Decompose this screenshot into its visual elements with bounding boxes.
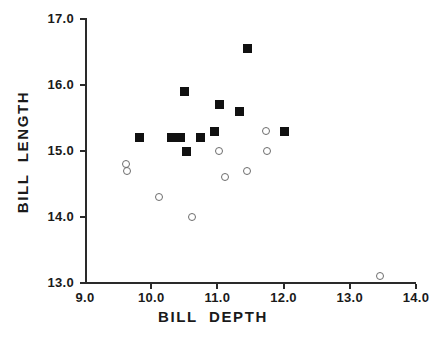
data-point-open-circle <box>123 167 131 175</box>
data-point-filled-square <box>235 107 244 116</box>
data-point-filled-square <box>215 100 224 109</box>
x-axis-tick-label: 9.0 <box>61 290 109 305</box>
x-axis-tick-label: 11.0 <box>193 290 241 305</box>
x-axis-tick-label: 10.0 <box>127 290 175 305</box>
data-point-filled-square <box>180 87 189 96</box>
data-point-open-circle <box>263 147 271 155</box>
data-point-open-circle <box>243 167 251 175</box>
y-axis-tick <box>80 84 85 86</box>
data-point-filled-square <box>210 127 219 136</box>
data-point-filled-square <box>280 127 289 136</box>
data-point-open-circle <box>155 193 163 201</box>
data-point-open-circle <box>376 272 384 280</box>
data-point-filled-square <box>176 133 185 142</box>
x-axis-tick-label: 13.0 <box>326 290 374 305</box>
y-axis-tick <box>80 216 85 218</box>
y-axis-tick-label: 16.0 <box>30 77 74 92</box>
data-point-filled-square <box>243 44 252 53</box>
data-point-open-circle <box>262 127 270 135</box>
data-point-filled-square <box>167 133 176 142</box>
data-point-open-circle <box>221 173 229 181</box>
x-axis-tick <box>150 284 152 289</box>
y-axis-tick-label: 13.0 <box>30 275 74 290</box>
data-point-filled-square <box>196 133 205 142</box>
y-axis-tick <box>80 150 85 152</box>
y-axis-tick <box>80 282 85 284</box>
data-point-open-circle <box>188 213 196 221</box>
x-axis-tick-label: 14.0 <box>392 290 434 305</box>
data-point-filled-square <box>135 133 144 142</box>
data-point-open-circle <box>215 147 223 155</box>
x-axis-tick <box>283 284 285 289</box>
data-point-filled-square <box>182 147 191 156</box>
y-axis-tick-label: 17.0 <box>30 11 74 26</box>
x-axis-tick-label: 12.0 <box>260 290 308 305</box>
x-axis-tick <box>349 284 351 289</box>
y-axis-tick-label: 14.0 <box>30 209 74 224</box>
x-axis-tick <box>216 284 218 289</box>
x-axis-tick <box>415 284 417 289</box>
y-axis-tick-label: 15.0 <box>30 143 74 158</box>
y-axis-tick <box>80 18 85 20</box>
